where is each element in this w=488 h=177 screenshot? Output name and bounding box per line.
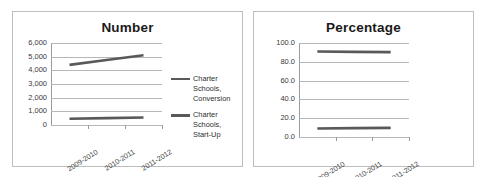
series-line-charter-schools-start-up [70, 118, 144, 119]
y-axis-tick-label: 0.0 [285, 133, 295, 141]
x-axis-tick-mark [88, 125, 89, 129]
series-line-charter-schools-conversion [317, 51, 390, 52]
x-axis-tick-mark [372, 137, 373, 141]
screenshot-canvas: Number 01,0002,0003,0004,0005,0006,00020… [0, 0, 488, 177]
legend-line-swatch-icon [171, 114, 190, 116]
y-axis-tick-label: 40.0 [280, 96, 295, 104]
y-axis-tick-label: 60.0 [280, 77, 295, 85]
gridline [299, 81, 409, 82]
x-axis-tick-label: 2010-2011 [350, 160, 383, 177]
x-axis-tick-label: 2011-2012 [140, 148, 173, 172]
x-axis-tick-mark [336, 137, 337, 141]
x-axis-tick-label: 2009-2010 [313, 160, 346, 177]
x-axis-tick-label: 2009-2010 [66, 148, 99, 172]
y-axis-tick-label: 5,000 [28, 53, 47, 61]
gridline [299, 137, 409, 138]
y-axis-tick-label: 3,000 [28, 80, 47, 88]
gridline [299, 43, 409, 44]
chart-percentage-title: Percentage [254, 20, 473, 35]
gridline [51, 43, 162, 44]
chart-percentage-y-axis [299, 43, 300, 137]
x-axis-tick-label: 2010-2011 [103, 148, 136, 172]
y-axis-tick-label: 100.0 [276, 39, 295, 47]
legend-item: Charter Schools, Conversion [171, 74, 241, 103]
legend-item: Charter Schools, Start-Up [171, 110, 241, 139]
chart-number: Number 01,0002,0003,0004,0005,0006,00020… [12, 11, 243, 167]
chart-number-title: Number [13, 20, 242, 35]
y-axis-tick-label: 20.0 [280, 114, 295, 122]
gridline [299, 62, 409, 63]
series-layer [299, 43, 409, 137]
gridline [51, 57, 162, 58]
gridline [51, 70, 162, 71]
x-axis-tick-mark [162, 125, 163, 129]
gridline [51, 125, 162, 126]
chart-number-plot-area: 01,0002,0003,0004,0005,0006,0002009-2010… [51, 43, 162, 125]
chart-number-legend: Charter Schools, Conversion Charter Scho… [171, 74, 241, 147]
x-axis-tick-mark [409, 137, 410, 141]
gridline [51, 111, 162, 112]
y-axis-tick-label: 80.0 [280, 58, 295, 66]
legend-item-label: Charter Schools, Start-Up [193, 110, 241, 139]
y-axis-tick-label: 0 [43, 121, 47, 129]
y-axis-tick-label: 4,000 [28, 67, 47, 75]
y-axis-tick-label: 2,000 [28, 94, 47, 102]
y-axis-tick-label: 6,000 [28, 39, 47, 47]
legend-line-swatch-icon [171, 78, 190, 80]
chart-percentage: Percentage 0.020.040.060.080.0100.02009-… [253, 11, 474, 167]
y-axis-tick-label: 1,000 [28, 108, 47, 116]
gridline [51, 98, 162, 99]
gridline [299, 99, 409, 100]
gridline [299, 118, 409, 119]
series-line-charter-schools-start-up [317, 128, 390, 129]
chart-percentage-plot-area: 0.020.040.060.080.0100.02009-20102010-20… [299, 43, 409, 137]
x-axis-tick-mark [125, 125, 126, 129]
gridline [51, 84, 162, 85]
legend-item-label: Charter Schools, Conversion [193, 74, 241, 103]
x-axis-tick-label: 2011-2012 [387, 160, 420, 177]
